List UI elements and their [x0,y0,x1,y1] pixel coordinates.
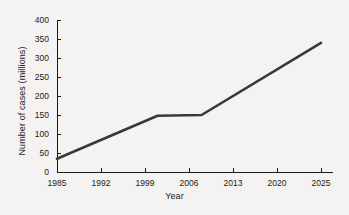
x-axis-tick-marks [57,168,321,172]
x-tick-label: 2020 [268,178,287,188]
x-tick-label: 1985 [48,178,67,188]
x-tick-label: 1992 [92,178,111,188]
y-axis-tick-labels: 050100150200250300350400 [35,15,49,177]
y-axis-tick-marks [57,20,61,172]
x-tick-label: 2006 [180,178,199,188]
y-tick-label: 0 [44,167,49,177]
x-axis-tick-labels: 1985199219992006201320202025 [48,178,331,188]
y-tick-label: 150 [35,110,49,120]
x-tick-label: 2013 [224,178,243,188]
x-axis-title: Year [0,191,349,201]
y-tick-label: 100 [35,129,49,139]
y-tick-label: 350 [35,34,49,44]
y-tick-label: 400 [35,15,49,25]
y-tick-label: 300 [35,53,49,63]
y-tick-label: 50 [40,148,50,158]
line-chart-plot: 050100150200250300350400 198519921999200… [0,0,349,215]
y-tick-label: 200 [35,91,49,101]
data-series-line [57,43,321,159]
x-tick-label: 1999 [136,178,155,188]
x-tick-label: 2025 [312,178,331,188]
y-tick-label: 250 [35,72,49,82]
chart-container: 050100150200250300350400 198519921999200… [0,0,349,215]
y-axis-title: Number of cases (millions) [17,26,27,176]
